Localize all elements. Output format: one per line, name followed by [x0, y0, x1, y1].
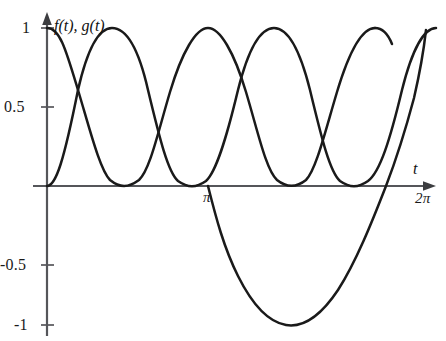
y-tick-label-neg-0-5: -0.5 [0, 256, 26, 274]
x-tick-label-2pi: 2π [415, 190, 430, 207]
trig-function-plot: 1 0.5 -0.5 -1 π 2π f(t), g(t) t [0, 0, 446, 341]
plot-canvas [0, 0, 446, 341]
x-tick-label-pi: π [203, 189, 211, 206]
curve-g-sin-squared [47, 28, 436, 186]
y-tick-label-0-5: 0.5 [4, 98, 25, 116]
curve-f-cos-squared-tail [375, 28, 392, 44]
x-axis [33, 181, 436, 191]
x-axis-label: t [413, 160, 417, 178]
curve-f-cos-squared [47, 28, 375, 186]
y-axis-label: f(t), g(t) [54, 17, 105, 35]
y-axis [42, 12, 52, 336]
y-tick-label-neg-1: -1 [14, 316, 28, 334]
y-tick-label-1: 1 [22, 19, 30, 37]
